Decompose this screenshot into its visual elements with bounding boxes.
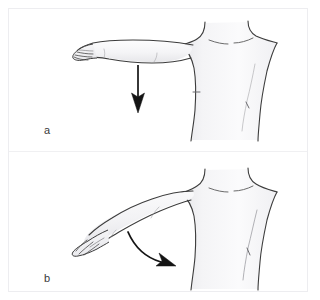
hand-a <box>73 44 97 60</box>
torso-b <box>181 168 277 290</box>
panel-label-b: b <box>44 273 50 284</box>
anatomical-figure: a b <box>0 0 320 300</box>
arrow-down-a <box>132 65 145 113</box>
torso-a <box>181 21 277 141</box>
panel-a <box>9 9 307 150</box>
arrow-curved-b <box>128 232 176 266</box>
panel-b <box>9 152 307 293</box>
panel-label-a: a <box>44 125 50 136</box>
